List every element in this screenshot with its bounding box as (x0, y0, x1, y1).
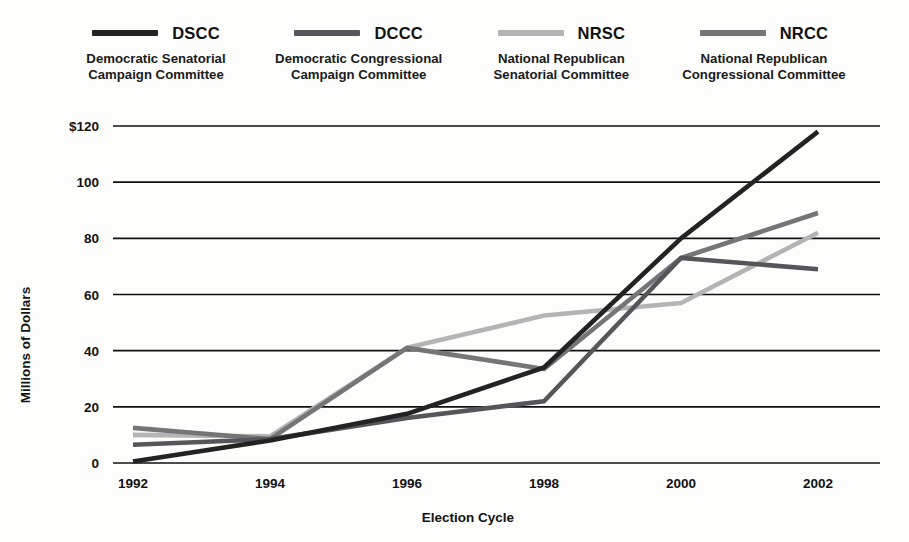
x-axis-title: Election Cycle (422, 510, 515, 525)
x-tick-label: 1992 (118, 476, 148, 491)
gridlines (113, 126, 880, 463)
x-axis-tick-labels: 199219941996199820002002 (118, 476, 833, 491)
x-tick-label: 2002 (803, 476, 833, 491)
y-axis-tick-labels: $120100806040200 (69, 119, 99, 471)
legend-swatch-dscc (92, 30, 158, 36)
x-tick-label: 2000 (666, 476, 696, 491)
y-tick-label: 100 (76, 175, 99, 190)
y-tick-label: 40 (84, 344, 99, 359)
legend-swatch-nrcc (700, 30, 766, 36)
legend-item-dccc: DCCC Democratic Congressional Campaign C… (263, 22, 455, 83)
y-tick-label: 60 (84, 288, 99, 303)
line-chart: $120100806040200 19921994199619982000200… (0, 110, 909, 542)
legend-full-dccc: Democratic Congressional Campaign Commit… (275, 51, 442, 83)
legend-key-dccc: DCCC (294, 22, 422, 44)
series-lines (133, 132, 818, 462)
x-tick-label: 1994 (255, 476, 286, 491)
y-tick-label: 20 (84, 400, 99, 415)
series-line-nrcc (133, 213, 818, 439)
legend-item-nrcc: NRCC National Republican Congressional C… (668, 22, 860, 83)
legend-abbr-nrsc: NRSC (578, 24, 626, 43)
y-axis-title: Millions of Dollars (18, 287, 33, 403)
legend-abbr-dscc: DSCC (172, 24, 220, 43)
legend-full-nrcc: National Republican Congressional Commit… (682, 51, 845, 83)
legend-full-nrsc: National Republican Senatorial Committee (494, 51, 630, 83)
x-tick-label: 1998 (529, 476, 560, 491)
legend-full-dscc: Democratic Senatorial Campaign Committee (86, 51, 225, 83)
y-tick-label: $120 (69, 119, 99, 134)
legend-item-nrsc: NRSC National Republican Senatorial Comm… (465, 22, 657, 83)
legend-swatch-nrsc (498, 30, 564, 36)
chart-page: DSCC Democratic Senatorial Campaign Comm… (0, 0, 909, 542)
chart-legend: DSCC Democratic Senatorial Campaign Comm… (60, 22, 860, 108)
x-tick-label: 1996 (392, 476, 423, 491)
series-line-dscc (133, 132, 818, 462)
legend-item-dscc: DSCC Democratic Senatorial Campaign Comm… (60, 22, 252, 83)
series-line-nrsc (133, 233, 818, 437)
y-tick-label: 0 (91, 456, 99, 471)
y-tick-label: 80 (84, 231, 99, 246)
legend-key-nrsc: NRSC (498, 22, 626, 44)
legend-key-nrcc: NRCC (700, 22, 828, 44)
legend-swatch-dccc (294, 30, 360, 36)
plot-area: $120100806040200 19921994199619982000200… (0, 110, 909, 542)
legend-abbr-nrcc: NRCC (780, 24, 828, 43)
legend-key-dscc: DSCC (92, 22, 220, 44)
legend-abbr-dccc: DCCC (374, 24, 422, 43)
